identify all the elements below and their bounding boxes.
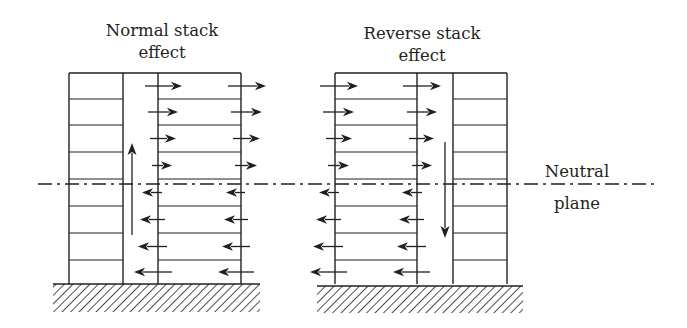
- reverse-stack-label-line2: effect: [398, 46, 445, 65]
- normal-stack-label-line1: Normal stack: [106, 21, 219, 40]
- neutral-plane-label-line2: plane: [554, 194, 600, 213]
- buildings-layer: [53, 73, 523, 313]
- ground-hatch: [317, 286, 523, 313]
- ground-hatch: [53, 284, 260, 312]
- normal-stack-building: [53, 73, 266, 312]
- reverse-stack-building: [310, 73, 523, 313]
- reverse-stack-label-line1: Reverse stack: [364, 24, 482, 43]
- neutral-plane-label-line1: Neutral: [545, 162, 609, 181]
- normal-stack-label-line2: effect: [138, 43, 185, 62]
- stack-effect-diagram: Normal stack effect Reverse stack effect…: [0, 0, 687, 328]
